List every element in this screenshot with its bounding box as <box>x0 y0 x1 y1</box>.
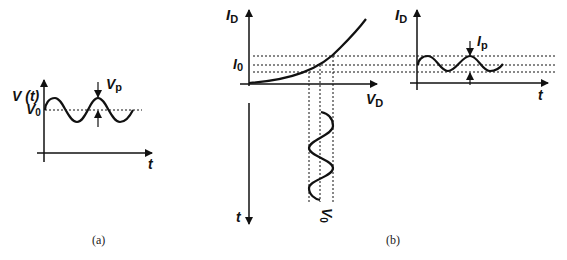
diagram-canvas: V (t) t V0 Vp (a) ID I0 VD <box>0 0 567 260</box>
b-ip-label: Ip <box>477 33 488 51</box>
caption-a: (a) <box>92 233 105 247</box>
figure-b-output-waveform: ID Ip t <box>395 6 548 103</box>
b-time-axis-label: t <box>236 209 242 225</box>
a-amplitude-label: Vp <box>106 76 122 93</box>
b-vd-axis-label: VD <box>366 91 383 109</box>
svg-text:V0: V0 <box>318 208 335 223</box>
caption-b: (b) <box>386 233 400 247</box>
b-out-t-axis-label: t <box>538 87 544 103</box>
b-input-sine <box>309 112 333 200</box>
b-out-id-axis-label: ID <box>395 6 407 25</box>
figure-b-characteristic: ID I0 VD <box>226 6 555 202</box>
b-id-axis-label: ID <box>226 6 238 25</box>
b-iv-curve <box>249 19 366 83</box>
figure-a: V (t) t V0 Vp (a) <box>12 76 154 247</box>
b-input-dc-label: V0 <box>318 208 335 223</box>
b-bias-current-label: I0 <box>233 56 243 73</box>
a-x-axis-label: t <box>148 156 154 172</box>
b-output-sine <box>418 56 503 71</box>
